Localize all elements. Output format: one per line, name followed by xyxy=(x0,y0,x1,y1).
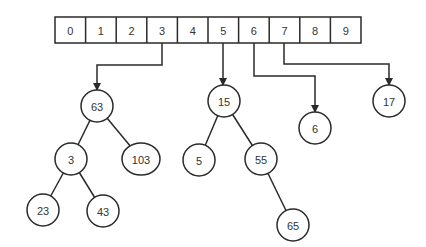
array-cell-3: 3 xyxy=(159,25,165,37)
array-cell-8: 8 xyxy=(312,25,318,37)
tree-node-103: 103 xyxy=(122,143,160,175)
array-cell-0: 0 xyxy=(67,25,73,37)
pointer-arrow-cell-7 xyxy=(284,43,389,85)
node-label: 43 xyxy=(97,206,109,218)
array-cell-1: 1 xyxy=(98,25,104,37)
node-label: 63 xyxy=(91,101,103,113)
array-cell-2: 2 xyxy=(128,25,134,37)
tree-nodes: 63310323431555565617 xyxy=(27,85,405,241)
tree-node-55: 55 xyxy=(245,143,277,175)
tree-node-65: 65 xyxy=(277,209,309,241)
tree-node-17: 17 xyxy=(373,85,405,117)
tree-node-3: 3 xyxy=(55,143,87,175)
array-cell-4: 4 xyxy=(190,25,196,37)
node-label: 5 xyxy=(196,155,202,167)
node-label: 103 xyxy=(132,154,150,166)
array-cell-7: 7 xyxy=(281,25,287,37)
node-label: 15 xyxy=(218,96,230,108)
array-cell-9: 9 xyxy=(343,25,349,37)
pointer-arrows xyxy=(97,43,389,112)
node-label: 6 xyxy=(312,123,318,135)
tree-node-23: 23 xyxy=(27,194,59,226)
hash-array: 0123456789 xyxy=(55,17,361,43)
node-label: 3 xyxy=(68,154,74,166)
hash-table-diagram: 0123456789 63310323431555565617 xyxy=(0,0,426,247)
node-label: 17 xyxy=(383,96,395,108)
tree-node-5: 5 xyxy=(183,144,215,176)
array-cell-5: 5 xyxy=(220,25,226,37)
tree-node-43: 43 xyxy=(87,195,119,227)
node-label: 65 xyxy=(287,220,299,232)
node-label: 23 xyxy=(37,205,49,217)
pointer-arrow-cell-3 xyxy=(97,43,162,90)
array-cell-6: 6 xyxy=(251,25,257,37)
node-label: 55 xyxy=(255,154,267,166)
tree-node-63: 63 xyxy=(81,90,113,122)
tree-node-15: 15 xyxy=(208,85,240,117)
tree-node-6: 6 xyxy=(299,112,331,144)
